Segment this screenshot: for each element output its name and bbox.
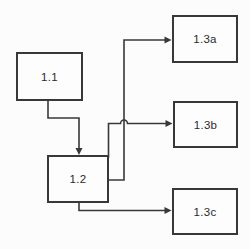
- arrowhead-into-1-3c: [165, 207, 172, 214]
- node-box-1-3c: 1.3c: [172, 188, 238, 235]
- node-box-1-3b: 1.3b: [173, 101, 238, 148]
- node-label-1-3a: 1.3a: [193, 33, 217, 45]
- node-box-1-3a: 1.3a: [172, 15, 238, 63]
- node-box-1-2: 1.2: [47, 155, 109, 203]
- node-label-1-2: 1.2: [70, 173, 87, 185]
- flowchart-canvas: 1.1 1.2 1.3a 1.3b 1.3c: [0, 0, 250, 249]
- arrowhead-into-1-2: [76, 148, 83, 155]
- node-box-1-1: 1.1: [16, 52, 83, 101]
- node-label-1-3c: 1.3c: [194, 206, 217, 218]
- node-label-1-1: 1.1: [41, 71, 58, 83]
- node-label-1-3b: 1.3b: [194, 119, 218, 131]
- arrowhead-into-1-3b: [166, 120, 173, 127]
- edge-1-1-to-1-2: [48, 99, 79, 149]
- arrowhead-into-1-3a: [165, 37, 172, 44]
- edge-1-2-to-1-3b: [109, 120, 166, 157]
- edge-1-2-to-1-3a: [107, 40, 165, 180]
